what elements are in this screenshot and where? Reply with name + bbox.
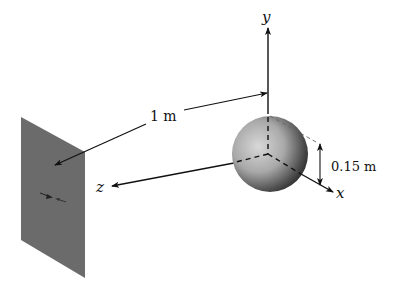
plate [21,117,85,278]
x-axis: x [301,174,345,202]
sphere [232,116,316,192]
y-axis-label: y [261,8,271,26]
z-axis-label: z [95,178,104,196]
x-axis-label: x [336,184,345,202]
radius-dimension: 0.15 m [320,144,376,185]
z-axis: z [95,163,234,196]
y-axis: y [261,8,271,114]
radius-label: 0.15 m [331,159,376,174]
distance-label: 1 m [150,108,177,124]
diagram-canvas: 1 m y z x 0.15 m [0,0,396,296]
